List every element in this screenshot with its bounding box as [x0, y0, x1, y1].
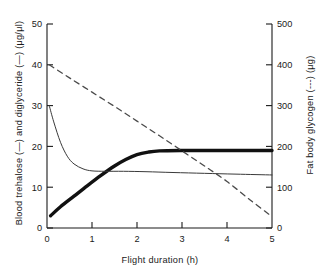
bottom-tick-label: 1 [89, 234, 94, 244]
bottom-axis-ticks: 012345 [44, 222, 274, 244]
plot-area: 01020304050 0100200300400500 012345 [0, 0, 316, 273]
left-tick-label: 50 [32, 19, 42, 29]
right-axis-ticks: 0100200300400500 [266, 19, 292, 233]
left-tick-label: 40 [32, 60, 42, 70]
series-line-blood-diglyceride [49, 106, 272, 175]
right-tick-label: 300 [277, 101, 292, 111]
bottom-tick-label: 0 [44, 234, 49, 244]
left-axis-title: Blood trehalose (—) and diglyceride (—) … [14, 18, 24, 228]
right-tick-label: 0 [277, 223, 282, 233]
right-axis-title: Fat body glycogen (---) (μg) [305, 10, 315, 220]
right-tick-label: 500 [277, 19, 292, 29]
left-axis-ticks: 01020304050 [32, 19, 53, 233]
series-line-blood-trehalose [51, 150, 272, 215]
right-tick-label: 200 [277, 142, 292, 152]
bottom-tick-label: 4 [224, 234, 229, 244]
left-tick-label: 30 [32, 101, 42, 111]
chart-figure: 01020304050 0100200300400500 012345 Bloo… [0, 0, 316, 273]
left-tick-label: 10 [32, 183, 42, 193]
bottom-tick-label: 2 [134, 234, 139, 244]
data-series-layer [49, 65, 272, 217]
bottom-tick-label: 3 [179, 234, 184, 244]
bottom-tick-label: 5 [269, 234, 274, 244]
left-tick-label: 20 [32, 142, 42, 152]
left-tick-label: 0 [37, 223, 42, 233]
series-line-fat-body-glycogen [49, 65, 272, 217]
x-axis-title: Flight duration (h) [47, 255, 273, 265]
right-tick-label: 400 [277, 60, 292, 70]
right-tick-label: 100 [277, 183, 292, 193]
